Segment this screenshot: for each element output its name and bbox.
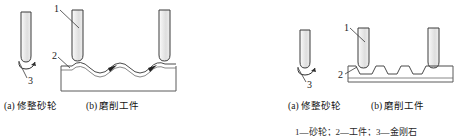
right-caption-a: (a) 修整砂轮 <box>288 99 341 113</box>
left-caption-b: (b) 磨削工件 <box>86 99 139 113</box>
grinding-wheel-shape <box>21 12 31 62</box>
left-figure-group: 1 2 3 (a) 修整砂轮 (b) 磨削工件 <box>0 0 200 136</box>
left-subfig-b-grinding <box>58 10 176 91</box>
left-callout-label-3: 3 <box>28 76 33 86</box>
workpiece-wavy-surface-upper <box>61 62 176 73</box>
grinding-wheel-right <box>428 28 439 68</box>
grinding-wheel-left <box>72 10 83 61</box>
right-figure-group: 1 2 3 (a) 修整砂轮 (b) 磨削工件 <box>285 0 457 136</box>
left-caption-row: (a) 修整砂轮 (b) 磨削工件 <box>0 99 200 113</box>
left-subfig-a-dressing <box>19 12 36 78</box>
right-callout-label-1: 1 <box>344 23 349 33</box>
callout-2-leader <box>345 67 357 74</box>
right-callout-label-2: 2 <box>338 70 343 80</box>
workpiece-wavy-surface-lower <box>61 66 176 77</box>
figure-sheet: 1 2 3 (a) 修整砂轮 (b) 磨削工件 <box>0 0 457 136</box>
grinding-wheel-left <box>358 28 369 68</box>
right-caption-b: (b) 磨削工件 <box>371 99 424 113</box>
right-callout-label-3: 3 <box>307 80 312 90</box>
grinding-wheel-right <box>159 10 170 61</box>
right-subfig-a-dressing <box>298 30 316 82</box>
right-subfig-b-grinding <box>345 28 453 82</box>
grinding-wheel-shape <box>300 30 310 68</box>
left-callout-label-2: 2 <box>52 51 57 61</box>
left-caption-a: (a) 修整砂轮 <box>4 99 57 113</box>
callout-3-leader <box>19 62 27 78</box>
right-caption-row: (a) 修整砂轮 (b) 磨削工件 <box>285 99 457 113</box>
workpiece-body <box>61 66 176 91</box>
figure-legend: 1—砂轮；2—工件；3—金刚石 <box>295 126 417 136</box>
left-callout-label-1: 1 <box>54 4 59 14</box>
